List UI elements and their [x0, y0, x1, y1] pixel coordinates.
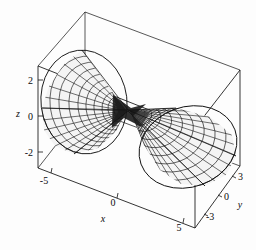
plot-3d-surface: 2 0 -2 z -5 0 5 x 3 0 -3 y	[0, 0, 256, 250]
x-tick-neg5	[51, 168, 52, 173]
z-tick-label-0: 0	[28, 111, 33, 122]
y-tick-label-0: 0	[224, 191, 229, 202]
y-axis-label: y	[237, 199, 243, 210]
z-tick-label-neg2: -2	[25, 147, 33, 158]
x-tick-5	[183, 218, 184, 223]
z-tick-label-2: 2	[28, 75, 33, 86]
plot-canvas: 2 0 -2 z -5 0 5 x 3 0 -3 y	[0, 0, 256, 250]
x-tick-label-neg5: -5	[40, 175, 48, 186]
x-tick-label-5: 5	[177, 222, 182, 233]
y-tick-3	[232, 176, 236, 178]
y-tick-label-neg3: -3	[206, 211, 214, 222]
z-axis-label: z	[15, 108, 20, 119]
box-edge-back-top-right	[85, 12, 240, 70]
x-tick-label-0: 0	[111, 197, 116, 208]
x-axis-label: x	[100, 213, 106, 224]
x-tick-0	[117, 193, 118, 198]
y-tick-label-3: 3	[238, 171, 243, 182]
